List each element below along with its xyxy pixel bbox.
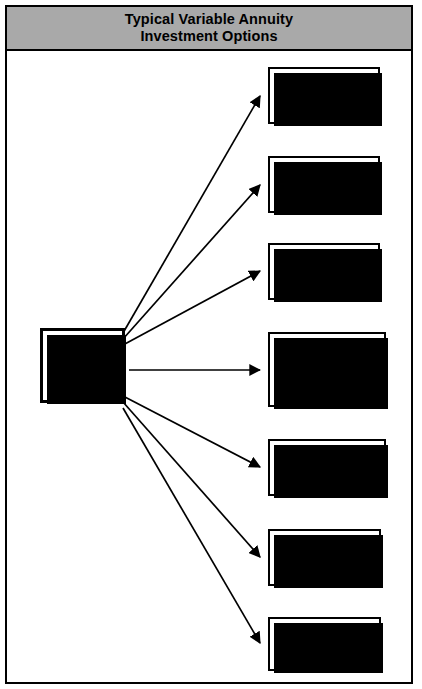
arrow-to-growth-with-income-fund bbox=[123, 402, 260, 557]
diagram-canvas: Variable Annuity Premium Dollars Money M… bbox=[7, 51, 411, 682]
node-variable-annuity-premium-dollars[interactable]: Variable Annuity Premium Dollars bbox=[40, 328, 125, 403]
figure-frame: Typical Variable Annuity Investment Opti… bbox=[5, 5, 413, 684]
arrow-to-government-securities-fund bbox=[123, 185, 260, 339]
arrow-to-bond-fund bbox=[123, 271, 260, 345]
arrow-to-growth-common-stock-fund bbox=[123, 396, 260, 467]
figure-title: Typical Variable Annuity Investment Opti… bbox=[125, 11, 293, 45]
node-label: Total Return (Balanced) Fund bbox=[296, 339, 359, 400]
node-money-market-fund[interactable]: Money Market Fund bbox=[268, 67, 380, 124]
arrow-to-money-market-fund bbox=[123, 96, 260, 333]
node-bond-fund[interactable]: Bond Fund bbox=[268, 243, 380, 300]
node-label: Variable Annuity Premium Dollars bbox=[56, 334, 108, 397]
node-guaranteed-account[interactable]: Guaranteed Account bbox=[268, 617, 381, 671]
node-label: Bond Fund bbox=[309, 256, 339, 287]
arrow-to-guaranteed-account bbox=[123, 408, 260, 643]
node-label: Government Securities Fund bbox=[288, 162, 360, 208]
node-growth-with-income-stock-fund[interactable]: Growth with Income (Stock) Fund bbox=[268, 529, 381, 586]
node-label: Growth (Common Stock) Fund bbox=[278, 445, 376, 491]
node-government-securities-fund[interactable]: Government Securities Fund bbox=[268, 156, 380, 213]
node-label: Money Market Fund bbox=[304, 73, 344, 119]
node-total-return-balanced-fund[interactable]: Total Return (Balanced) Fund bbox=[268, 332, 386, 407]
node-label: Guaranteed Account bbox=[290, 629, 359, 660]
node-label: Growth with Income (Stock) Fund bbox=[281, 535, 368, 581]
figure-title-band: Typical Variable Annuity Investment Opti… bbox=[7, 7, 411, 51]
node-growth-common-stock-fund[interactable]: Growth (Common Stock) Fund bbox=[268, 439, 386, 496]
